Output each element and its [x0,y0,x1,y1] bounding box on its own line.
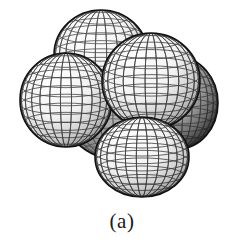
molecule-svg [0,0,244,200]
molecule-illustration [0,0,244,200]
atom-hydrogen-bottom-front [95,117,189,197]
atom-hydrogen-left-front [20,53,112,147]
atom-layer [20,10,218,197]
figure-container: (a) [0,0,244,243]
atom-hydrogen-upper-front [102,33,200,129]
figure-caption: (a) [0,200,244,243]
